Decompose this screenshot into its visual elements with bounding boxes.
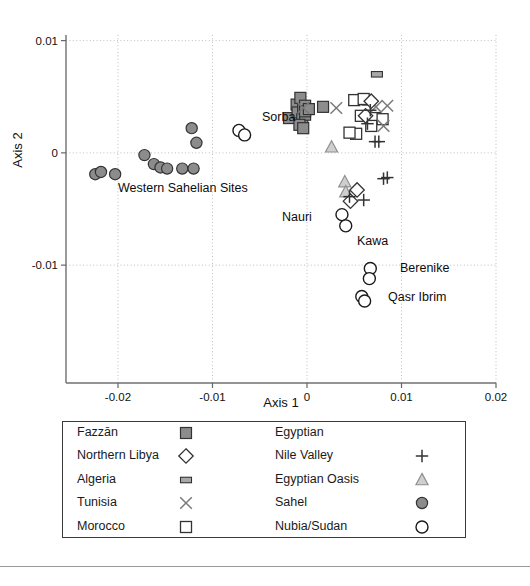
legend-item: Fazzān [63, 422, 263, 445]
legend-symbol-plus-icon [411, 447, 433, 465]
legend-item: Egyptian [263, 422, 467, 445]
legend-symbol-open-triangle-icon [411, 471, 433, 489]
plot-svg: -0.02-0.0100.010.020.010-0.01 SorbaWeste… [0, 0, 530, 410]
data-point-filled-circle [191, 137, 202, 148]
legend-label: Tunisia [77, 495, 117, 509]
legend-symbol-filled-square-icon [175, 424, 197, 442]
y-tick-label: 0.01 [36, 35, 58, 47]
legend-symbol-cross-x-icon [175, 494, 197, 512]
legend-symbol-none-icon [411, 424, 433, 442]
annotation-qasr-ibrim: Qasr Ibrim [388, 290, 446, 304]
legend-label: Egyptian Oasis [275, 472, 359, 486]
data-point-open-square [181, 521, 192, 532]
data-point-filled-circle [110, 169, 121, 180]
legend-symbol-open-circle-icon [411, 518, 433, 536]
legend-label: Nubia/Sudan [275, 519, 347, 533]
data-point-cross-x [180, 497, 192, 509]
x-tick-label: 0.02 [485, 391, 507, 403]
legend-item: Nile Valley [263, 445, 467, 468]
data-point-open-triangle [416, 473, 428, 484]
data-point-filled-square [298, 123, 309, 134]
data-point-cross-x [382, 100, 394, 112]
legend-symbol-filled-circle-icon [411, 494, 433, 512]
data-point-filled-circle [139, 150, 150, 161]
legend-item: Egyptian Oasis [263, 469, 467, 492]
x-tick-label: 0 [304, 391, 310, 403]
legend-item: Algeria [63, 469, 263, 492]
data-point-filled-circle [162, 163, 173, 174]
data-point-open-diamond [179, 449, 193, 463]
x-tick-label: -0.02 [105, 391, 131, 403]
axis-ticks [61, 41, 496, 388]
legend-item: Northern Libya [63, 445, 263, 468]
x-tick-label: -0.01 [199, 391, 225, 403]
series-egyptian-oasis [325, 141, 351, 197]
x-tick-label: 0.01 [390, 391, 412, 403]
legend-symbol-filled-rect-icon [175, 471, 197, 489]
legend-item: Nubia/Sudan [263, 516, 467, 539]
data-point-filled-circle [95, 166, 106, 177]
legend-item: Sahel [263, 492, 467, 515]
data-point-open-circle [416, 521, 428, 533]
plot-frame [66, 35, 496, 383]
data-point-filled-square [318, 101, 329, 112]
data-point-open-circle [340, 220, 352, 232]
legend-label: Egyptian [275, 425, 324, 439]
series-sahel [90, 123, 202, 180]
data-point-filled-square [181, 428, 192, 439]
bottom-divider [0, 566, 530, 567]
legend-column-right: EgyptianNile ValleyEgyptian OasisSahelNu… [263, 422, 467, 539]
data-point-filled-rect [371, 72, 382, 78]
data-point-filled-rect [181, 477, 192, 483]
data-point-open-circle [336, 209, 348, 221]
y-tick-label: 0 [52, 147, 58, 159]
legend-label: Nile Valley [275, 448, 333, 462]
data-point-open-square [344, 127, 355, 138]
data-point-open-circle [363, 273, 375, 285]
gridlines [66, 35, 496, 383]
legend-item: Tunisia [63, 492, 263, 515]
data-point-open-triangle [339, 175, 351, 186]
legend-symbol-open-square-icon [175, 518, 197, 536]
data-point-open-circle [359, 295, 371, 307]
annotation-nauri: Nauri [282, 210, 312, 224]
data-point-filled-circle [188, 163, 199, 174]
legend-label: Northern Libya [77, 448, 159, 462]
data-point-open-triangle [325, 141, 337, 152]
data-point-filled-circle [416, 498, 427, 509]
annotation-berenike: Berenike [400, 261, 449, 275]
data-point-cross-x [330, 102, 342, 114]
annotation-sorba: Sorba [262, 110, 295, 124]
legend-label: Morocco [77, 519, 125, 533]
legend-item: Morocco [63, 516, 263, 539]
figure-root: -0.02-0.0100.010.020.010-0.01 SorbaWeste… [0, 0, 530, 586]
data-point-filled-circle [186, 123, 197, 134]
legend-label: Sahel [275, 495, 307, 509]
legend-label: Algeria [77, 472, 116, 486]
annotation-kawa: Kawa [357, 234, 388, 248]
legend: FazzānNorthern LibyaAlgeriaTunisiaMorocc… [62, 421, 466, 538]
annotation-western-sahel: Western Sahelian Sites [118, 181, 248, 195]
legend-label: Fazzān [77, 425, 118, 439]
legend-column-left: FazzānNorthern LibyaAlgeriaTunisiaMorocc… [63, 422, 263, 539]
data-point-filled-circle [177, 163, 188, 174]
x-axis-title: Axis 1 [263, 395, 298, 410]
scatter-plot: -0.02-0.0100.010.020.010-0.01 SorbaWeste… [0, 0, 530, 410]
data-point-open-circle [239, 129, 251, 141]
y-tick-label: -0.01 [32, 259, 58, 271]
data-point-plus [416, 450, 428, 462]
y-axis-title: Axis 2 [10, 132, 25, 167]
legend-symbol-open-diamond-icon [175, 447, 197, 465]
point-annotations: SorbaWestern Sahelian SitesNauriKawaBere… [118, 110, 449, 304]
axis-tick-labels: -0.02-0.0100.010.020.010-0.01 [32, 35, 507, 403]
